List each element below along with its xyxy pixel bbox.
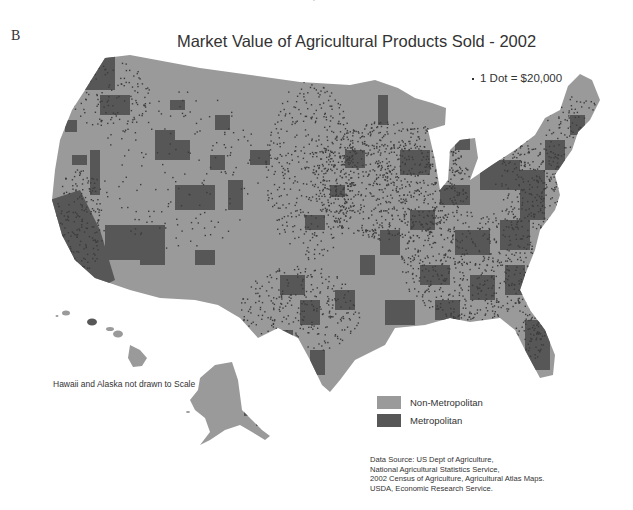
dot-symbol-icon — [472, 78, 474, 80]
dot-legend-label: 1 Dot = $20,000 — [480, 72, 562, 84]
source-line: National Agricultural Statistics Service… — [370, 465, 544, 475]
source-line: 2002 Census of Agriculture, Agricultural… — [370, 474, 544, 484]
legend-item-non-metropolitan: Non-Metropolitan — [377, 393, 483, 411]
contiguous-us — [50, 50, 606, 392]
legend-label: Non-Metropolitan — [410, 397, 483, 408]
scale-note: Hawaii and Alaska not drawn to Scale — [53, 379, 195, 389]
source-line: Data Source: US Dept of Agriculture, — [370, 455, 544, 465]
legend-label: Metropolitan — [410, 415, 462, 426]
data-source-citation: Data Source: US Dept of Agriculture, Nat… — [370, 455, 544, 493]
non-metro-swatch — [377, 396, 401, 409]
hawaii — [56, 311, 148, 368]
metro-swatch — [377, 414, 401, 427]
dot-value-legend: 1 Dot = $20,000 — [472, 72, 562, 84]
area-type-legend: Non-Metropolitan Metropolitan — [377, 393, 483, 429]
source-line: USDA, Economic Research Service. — [370, 484, 544, 494]
legend-item-metropolitan: Metropolitan — [377, 411, 483, 429]
alaska — [186, 362, 270, 445]
